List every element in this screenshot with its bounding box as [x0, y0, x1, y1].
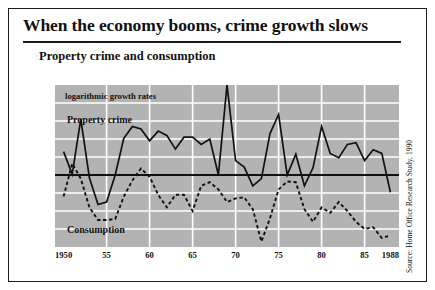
- chart-subtitle: Property crime and consumption: [39, 49, 216, 64]
- x-tick-label: 80: [317, 251, 326, 260]
- x-tick-label: 70: [231, 251, 240, 260]
- page-title: When the economy booms, crime growth slo…: [23, 15, 403, 36]
- x-axis-tick-labels: 1950556065707580851988: [9, 249, 428, 267]
- x-tick-label: 65: [188, 251, 197, 260]
- annotation-property-crime: Property crime: [67, 115, 132, 125]
- x-tick-label: 75: [274, 251, 283, 260]
- x-tick-label: 1988: [382, 251, 399, 260]
- x-tick-label: 55: [102, 251, 111, 260]
- x-tick-label: 60: [145, 251, 154, 260]
- x-tick-label: 85: [360, 251, 369, 260]
- chart-plot-area: logarithmic growth rates Property crime …: [55, 85, 399, 247]
- source-note-container: Source: Home Office Research Study, 1990: [405, 93, 423, 273]
- source-note: Source: Home Office Research Study, 1990: [405, 93, 423, 273]
- chart-canvas: [55, 85, 399, 247]
- x-tick-label: 1950: [55, 251, 72, 260]
- annotation-units: logarithmic growth rates: [65, 92, 156, 101]
- figure-frame: When the economy booms, crime growth slo…: [8, 8, 427, 282]
- y-axis-tick-labels: 0.250.200.150.100.050.00-0.05-0.10-0.15-…: [9, 79, 53, 259]
- title-divider: [23, 41, 401, 43]
- annotation-consumption: Consumption: [67, 225, 125, 235]
